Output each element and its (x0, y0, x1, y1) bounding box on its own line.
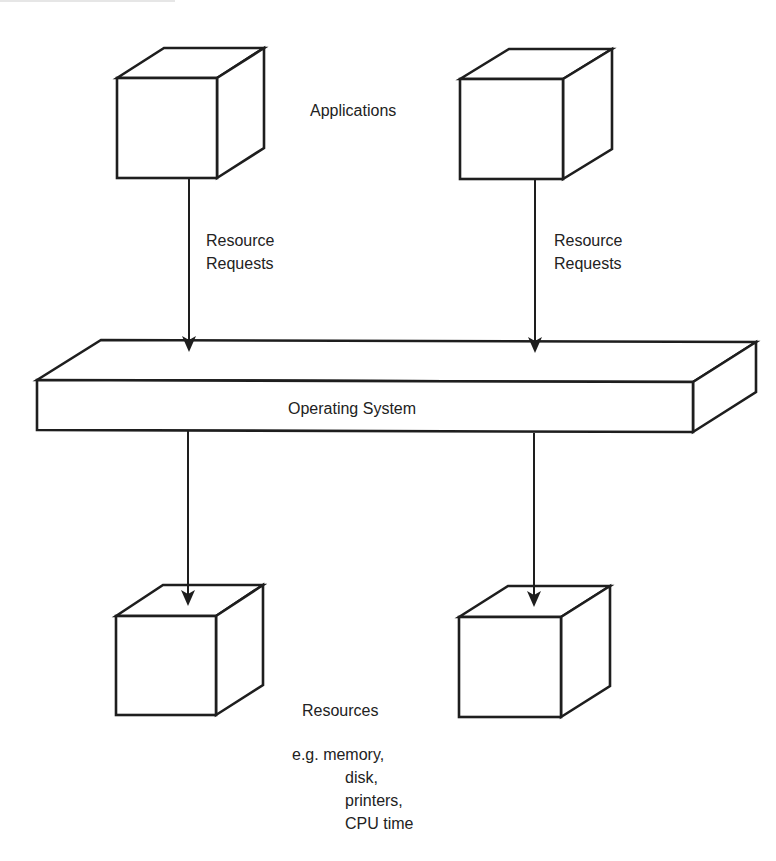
edge-label-2-line1: Resource (554, 229, 622, 252)
application-cube-1 (117, 48, 264, 178)
allocation-arrow-1 (181, 431, 195, 606)
application-cube-2 (460, 49, 612, 179)
applications-label: Applications (310, 99, 396, 122)
cube-front-face (459, 617, 561, 717)
diagram-canvas (0, 0, 776, 861)
cube-front-face (116, 616, 216, 715)
cube-front-face (460, 79, 563, 179)
cube-front-face (117, 78, 217, 178)
resources-examples-intro: e.g. memory, (292, 743, 384, 766)
request-arrow-1 (182, 179, 196, 352)
resources-label: Resources (302, 699, 378, 722)
resource-cube-1 (116, 585, 263, 715)
request-arrow-2 (528, 180, 542, 353)
edge-label-1-line2: Requests (206, 252, 274, 275)
edge-label-1-line1: Resource (206, 229, 274, 252)
resources-example-disk: disk, (345, 766, 378, 789)
slab-top-face (37, 340, 756, 382)
resources-example-printers: printers, (345, 789, 403, 812)
allocation-arrow-2 (527, 433, 541, 607)
resources-example-cpu-time: CPU time (345, 812, 413, 835)
edge-label-2-line2: Requests (554, 252, 622, 275)
operating-system-label: Operating System (288, 397, 416, 420)
